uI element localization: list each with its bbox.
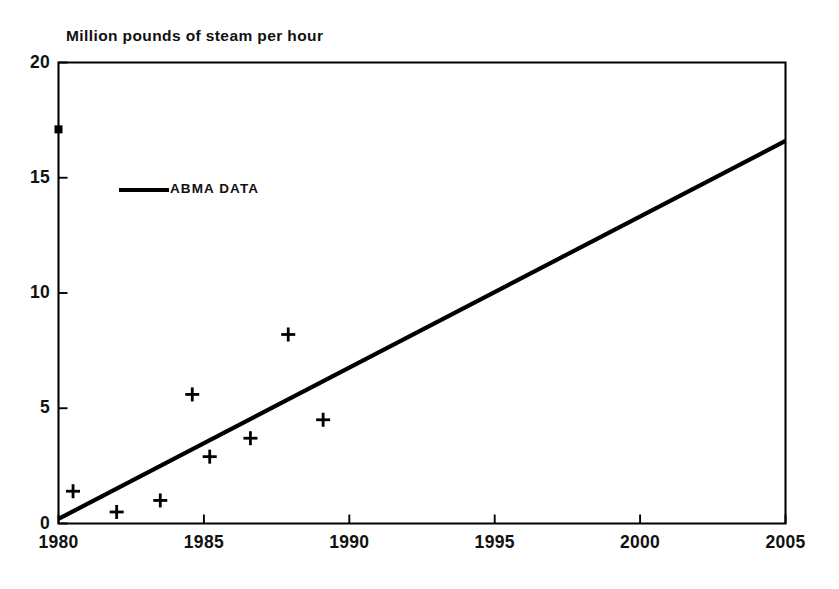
y-axis-tick-label: 10 — [4, 282, 50, 303]
y-axis-tick-label: 5 — [4, 397, 50, 418]
x-axis-tick-label: 1990 — [304, 532, 394, 553]
x-axis-tick-label: 2000 — [595, 532, 685, 553]
chart-canvas — [0, 0, 839, 589]
chart-figure: Million pounds of steam per hour 2015105… — [0, 0, 839, 589]
y-axis-tick-label: 0 — [4, 513, 50, 534]
data-series — [55, 125, 786, 519]
legend-item-abma-data: ABMA DATA — [170, 181, 259, 196]
y-axis-tick-label: 15 — [4, 167, 50, 188]
x-axis-tick-label: 1980 — [14, 532, 104, 553]
y-axis-tick-label: 20 — [4, 52, 50, 73]
plot-frame — [59, 63, 786, 524]
x-axis-tick-label: 1995 — [450, 532, 540, 553]
x-axis-tick-label: 1985 — [159, 532, 249, 553]
x-axis-tick-label: 2005 — [741, 532, 831, 553]
axis-ticks — [59, 63, 786, 524]
